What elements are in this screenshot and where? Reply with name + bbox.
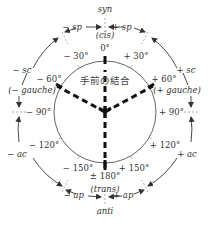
minus-sc-label: − sc — [13, 65, 32, 75]
angle-minus-150: − 150° — [63, 163, 93, 173]
angle-plus-120: + 120° — [150, 140, 180, 150]
minus-ac-label: − ac — [7, 149, 27, 159]
angle-0: 0° — [100, 43, 110, 53]
angle-plus-150: + 150° — [119, 163, 149, 173]
angle-minus-120: − 120° — [29, 140, 59, 150]
front-bond-label: 手前の結合 — [80, 75, 130, 86]
angle-180: ± 180° — [90, 171, 120, 181]
minus-gauche-label: (− gauche) — [8, 85, 56, 95]
angle-plus-30: + 30° — [124, 51, 149, 61]
plus-sc-label: + sc — [177, 65, 196, 75]
minus-sp-label: − sp — [62, 22, 82, 32]
syn-label: syn — [98, 4, 113, 14]
newman-conformation-diagram: 手前の結合 syn (cis) anti (trans) − sp + sp −… — [0, 0, 208, 227]
anti-label: anti — [97, 206, 114, 216]
plus-ap-label: + ap — [113, 190, 134, 200]
minus-ap-label: − ap — [64, 190, 85, 200]
plus-sp-label: + sp — [112, 22, 132, 32]
angle-minus-30: − 30° — [64, 51, 89, 61]
angle-plus-90: + 90° — [159, 107, 184, 117]
plus-ac-label: + ac — [177, 149, 197, 159]
angle-minus-60: − 60° — [37, 74, 62, 84]
front-bonds — [56, 56, 154, 170]
angle-plus-60: + 60° — [152, 74, 177, 84]
plus-gauche-label: (+ gauche) — [153, 85, 201, 95]
angle-minus-90: − 90° — [26, 107, 51, 117]
